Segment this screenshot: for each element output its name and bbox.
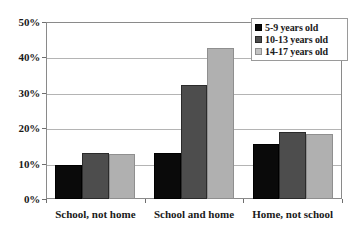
legend-item-label: 14-17 years old <box>265 47 328 57</box>
legend-swatch-icon <box>255 48 262 55</box>
bar <box>306 134 333 199</box>
x-axis-category-label: School and home <box>145 209 244 220</box>
x-axis-tick-mark <box>145 199 146 203</box>
y-axis-tick-label: 40% <box>0 52 40 63</box>
legend-swatch-icon <box>255 36 262 43</box>
x-axis-category-label: Home, not school <box>243 209 342 220</box>
legend-item: 10-13 years old <box>255 34 343 45</box>
bar <box>154 153 181 199</box>
x-axis-tick-mark <box>243 199 244 203</box>
legend: 5-9 years old10-13 years old14-17 years … <box>251 18 348 61</box>
legend-item-label: 5-9 years old <box>265 23 318 33</box>
y-axis-tick-label: 20% <box>0 123 40 134</box>
legend-item-label: 10-13 years old <box>265 35 328 45</box>
x-axis-tick-mark <box>342 199 343 203</box>
y-axis-tick-label: 50% <box>0 17 40 28</box>
legend-item: 5-9 years old <box>255 22 343 33</box>
x-axis-category-label: School, not home <box>46 209 145 220</box>
bar <box>253 144 280 199</box>
bar <box>207 48 234 200</box>
bar <box>82 153 109 199</box>
legend-item: 14-17 years old <box>255 46 343 57</box>
bar <box>279 132 306 199</box>
y-axis-tick-label: 0% <box>0 194 40 205</box>
y-axis-tick-label: 10% <box>0 159 40 170</box>
bar <box>109 154 136 199</box>
bar <box>55 165 82 199</box>
legend-swatch-icon <box>255 24 262 31</box>
x-axis-tick-mark <box>46 199 47 203</box>
y-axis-tick-label: 30% <box>0 88 40 99</box>
bar <box>181 85 208 199</box>
bar-chart: 0%10%20%30%40%50% School, not homeSchool… <box>0 0 359 236</box>
